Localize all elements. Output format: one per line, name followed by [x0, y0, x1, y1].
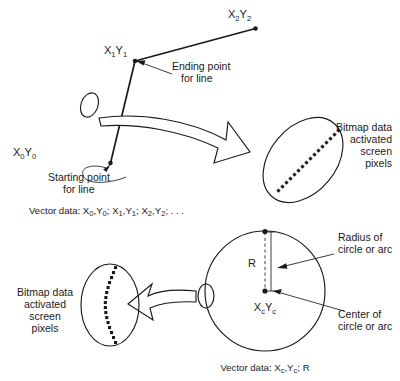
- line-segment-p1-p2: [135, 29, 256, 62]
- vector-data-line-text: Vector data: X0,Y0; X1,Y1; X2,Y2; . . .: [29, 205, 184, 218]
- ending-point-leader-line: [142, 63, 172, 74]
- bitmap-caption-circle-2: activated: [24, 298, 66, 310]
- bitmap-caption-line: Bitmap data activated screen pixels: [336, 121, 392, 169]
- x2y2-label: X2Y2: [228, 8, 251, 23]
- center-annotation-line1: Center of: [338, 308, 381, 320]
- ending-point-line2: for line: [181, 72, 213, 84]
- bitmap-ellipse-line: [247, 102, 359, 218]
- radius-annotation-line1: Radius of: [338, 231, 382, 243]
- magnifier-ellipse-line: [77, 90, 102, 119]
- circle-graphic: [198, 229, 325, 351]
- ending-point-arrowhead: [136, 60, 146, 65]
- circle-top-dot: [262, 229, 267, 234]
- bitmap-caption-circle-4: pixels: [32, 322, 59, 334]
- starting-point-line2: for line: [63, 183, 95, 195]
- radius-annotation-leader: [277, 254, 334, 269]
- vector-data-circle-text: Vector data: Xc,Yc; R: [220, 362, 309, 375]
- vertex-dot-x2y2: [253, 26, 258, 31]
- starting-point-line1: Starting point: [48, 171, 110, 183]
- radius-annotation-line2: circle or arc: [338, 243, 392, 255]
- diagram-canvas: X0Y0 X1Y1 X2Y2 Starting point for line E…: [0, 0, 400, 381]
- zoom-arrow-top-shape: [99, 116, 250, 163]
- bitmap-pixels-circle: [104, 266, 117, 344]
- center-coordinate-label: XcYc: [254, 301, 276, 316]
- radius-leader-arrowhead: [277, 263, 287, 269]
- circle-center-dot: [262, 288, 267, 293]
- ending-point-line1: Ending point: [172, 60, 230, 72]
- bitmap-caption-line-1: Bitmap data: [336, 121, 392, 133]
- zoom-arrow-top: [99, 116, 250, 163]
- center-annotation-leader: [273, 289, 345, 311]
- radius-label: R: [248, 257, 256, 269]
- center-leader-arrowhead: [273, 289, 282, 295]
- radius-leader-line: [285, 254, 334, 266]
- line-segment-p0-p1: [111, 61, 136, 163]
- center-leader-line: [281, 293, 344, 311]
- x0y0-label: X0Y0: [13, 146, 36, 161]
- bitmap-caption-circle-1: Bitmap data: [17, 286, 73, 298]
- ending-point-leader: [136, 60, 172, 74]
- bitmap-caption-line-2: activated: [350, 133, 392, 145]
- x1y1-label: X1Y1: [104, 44, 127, 59]
- bitmap-ellipse-line-outline: [247, 102, 359, 218]
- bitmap-caption-line-4: pixels: [365, 157, 392, 169]
- center-annotation-line2: circle or arc: [338, 320, 392, 332]
- bitmap-caption-circle-3: screen: [29, 310, 61, 322]
- bitmap-caption-line-3: screen: [360, 145, 392, 157]
- bitmap-caption-circle: Bitmap data activated screen pixels: [17, 286, 73, 334]
- bitmap-pixels-line: [276, 128, 340, 192]
- vertex-dot-x0y0: [108, 161, 113, 166]
- vector-bitmap-diagram: X0Y0 X1Y1 X2Y2 Starting point for line E…: [0, 0, 400, 381]
